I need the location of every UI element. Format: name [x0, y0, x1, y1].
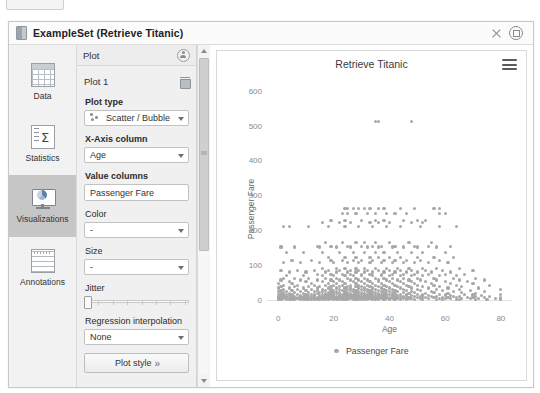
sidebar-item-visualizations[interactable]: Visualizations: [9, 175, 76, 237]
size-select[interactable]: -: [84, 259, 189, 275]
hamburger-menu-icon[interactable]: [502, 59, 517, 70]
x-axis-tick: 80: [496, 314, 505, 323]
restore-icon[interactable]: [509, 26, 523, 40]
scatter-point: [307, 225, 310, 228]
scatter-point: [324, 277, 327, 280]
scatter-point: [446, 261, 449, 264]
scatter-point: [444, 251, 447, 254]
scatter-point: [421, 285, 424, 288]
scatter-point: [430, 241, 433, 244]
scatter-point: [438, 274, 441, 277]
scatter-point: [307, 277, 310, 280]
scatter-point: [349, 245, 352, 248]
scatter-point: [318, 261, 321, 264]
color-value: -: [90, 225, 93, 235]
scatter-point: [413, 261, 416, 264]
plot-style-label: Plot style: [115, 358, 152, 368]
plot-entry-row[interactable]: Plot 1: [84, 73, 189, 90]
plot-style-button[interactable]: Plot style »: [84, 353, 189, 373]
scatter-point: [499, 288, 502, 291]
scatter-point: [346, 298, 349, 301]
x-axis-tick: 20: [329, 314, 338, 323]
config-scrollbar[interactable]: [197, 45, 210, 387]
scatter-point: [299, 261, 302, 264]
chevron-down-icon: [178, 266, 184, 270]
x-axis-tick: 0: [276, 314, 280, 323]
scatter-point: [329, 245, 332, 248]
scatter-point: [304, 298, 307, 301]
window-body: Data Statistics Visualizations Annotatio…: [9, 45, 533, 387]
scatter-point: [363, 207, 366, 210]
scatter-point: [413, 207, 416, 210]
sidebar-item-data[interactable]: Data: [9, 51, 76, 113]
sidebar-item-annotations[interactable]: Annotations: [9, 237, 76, 299]
scatter-point: [341, 241, 344, 244]
scatter-point: [366, 269, 369, 272]
trash-icon[interactable]: [180, 76, 189, 87]
scatter-point: [424, 219, 427, 222]
scatter-point: [352, 259, 355, 262]
scatter-point: [290, 259, 293, 262]
scatter-point: [402, 261, 405, 264]
scatter-point: [485, 298, 488, 301]
scatter-point: [296, 284, 299, 287]
background-widget-fragment: [6, 0, 64, 10]
scatter-point: [416, 270, 419, 273]
scatter-point: [357, 225, 360, 228]
scatter-point: [341, 212, 344, 215]
scatter-point: [352, 251, 355, 254]
window-controls: [491, 26, 529, 40]
slider-handle[interactable]: [84, 296, 92, 309]
user-circle-icon[interactable]: [177, 49, 190, 62]
chevron-down-icon: [178, 229, 184, 233]
scatter-point: [402, 219, 405, 222]
scatter-point: [354, 241, 357, 244]
scatter-point: [413, 273, 416, 276]
scatter-point: [341, 298, 344, 301]
scatter-point: [288, 225, 291, 228]
scatter-point: [332, 261, 335, 264]
scatter-point: [310, 259, 313, 262]
scatter-point: [399, 225, 402, 228]
scatter-point: [335, 270, 338, 273]
sidebar-item-statistics[interactable]: Statistics: [9, 113, 76, 175]
scatter-point: [346, 207, 349, 210]
scatter-point: [382, 298, 385, 301]
x-axis-column-value: Age: [90, 150, 106, 160]
scatter-point: [388, 269, 391, 272]
scatter-point: [380, 261, 383, 264]
scatter-plot-area[interactable]: 0100200300400500600020406080: [267, 77, 512, 310]
scatter-point: [363, 241, 366, 244]
scatter-point: [449, 270, 452, 273]
jitter-slider[interactable]: [84, 296, 189, 307]
scrollbar-track[interactable]: [199, 58, 209, 374]
scatter-point: [371, 259, 374, 262]
scatter-point: [302, 274, 305, 277]
scatter-point: [458, 278, 461, 281]
x-axis-column-select[interactable]: Age: [84, 147, 189, 163]
sidebar-item-label: Visualizations: [17, 214, 69, 224]
color-select[interactable]: -: [84, 222, 189, 238]
scatter-point: [455, 225, 458, 228]
scatter-point: [483, 278, 486, 281]
scrollbar-thumb[interactable]: [199, 58, 209, 251]
scatter-point: [432, 284, 435, 287]
scroll-up-icon[interactable]: [198, 45, 210, 57]
scatter-point: [343, 219, 346, 222]
scatter-point: [421, 251, 424, 254]
scatter-point: [463, 273, 466, 276]
scroll-down-icon[interactable]: [198, 375, 210, 387]
scatter-point: [282, 277, 285, 280]
plot-type-select[interactable]: Scatter / Bubble: [84, 110, 189, 126]
scatter-point: [424, 280, 427, 283]
scatter-point: [407, 297, 410, 300]
close-icon[interactable]: [491, 28, 502, 39]
scatter-point: [488, 284, 491, 287]
scatter-point: [455, 298, 458, 301]
scatter-point: [377, 256, 380, 259]
regression-select[interactable]: None: [84, 329, 189, 345]
scatter-point: [405, 212, 408, 215]
window-title: ExampleSet (Retrieve Titanic): [33, 27, 183, 39]
value-columns-listbox[interactable]: Passenger Fare: [84, 184, 189, 201]
plot-config-panel: Plot Plot 1 Plot type Scatter / Bubble: [77, 45, 197, 387]
